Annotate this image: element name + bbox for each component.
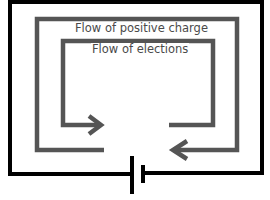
battery-positive-plate	[130, 156, 134, 194]
electron-flow-label: Flow of elections	[91, 43, 189, 55]
positive-charge-label: Flow of positive charge	[74, 22, 209, 34]
battery-negative-plate	[141, 165, 145, 183]
battery-icon	[130, 156, 145, 194]
